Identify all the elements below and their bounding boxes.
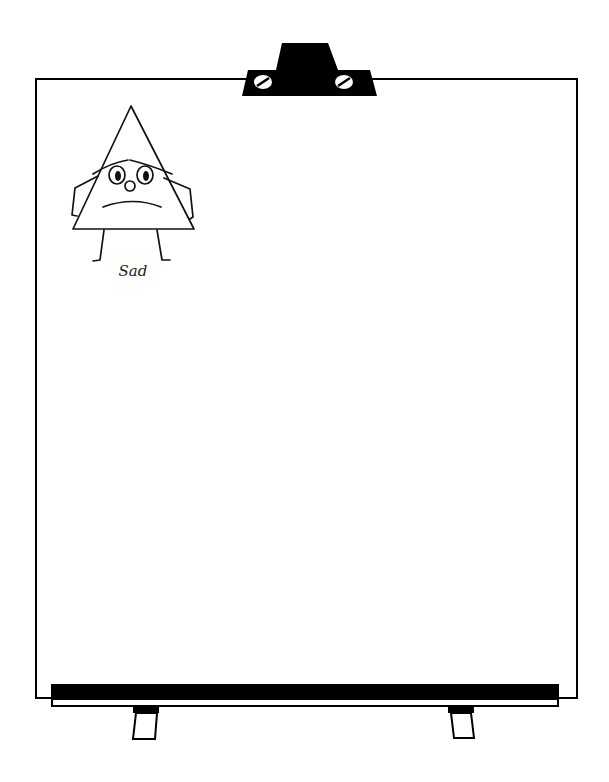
easel-board xyxy=(0,0,609,782)
emotion-label: Sad xyxy=(103,262,163,280)
screw-icon-left xyxy=(254,75,272,89)
board-leg-left xyxy=(133,706,159,739)
board-clip xyxy=(242,43,377,96)
board-tray-lip xyxy=(52,699,558,706)
board-leg-right xyxy=(448,706,474,738)
screw-icon-right xyxy=(335,75,353,89)
